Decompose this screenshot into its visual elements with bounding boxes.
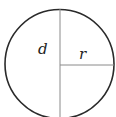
diameter-label: d bbox=[38, 40, 48, 58]
radius-label: r bbox=[79, 45, 87, 63]
circle-diagram: d r bbox=[0, 0, 116, 117]
